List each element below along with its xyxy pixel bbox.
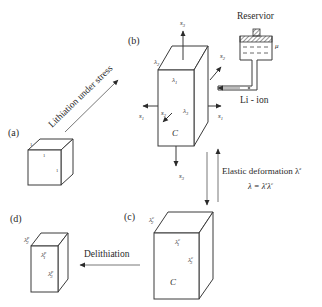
li-ion-particle — [248, 87, 251, 90]
cube-c-lambda2: λc2 — [148, 215, 154, 225]
li-ion-label: Li - ion — [240, 95, 269, 105]
delithiation-transition: Delithiation — [80, 249, 140, 265]
elastic-label: Elastic deformation λe — [222, 166, 301, 176]
cube-c-center-c: C — [170, 277, 177, 287]
panel-c: (c) λc2 λc1 λc3 C — [124, 211, 213, 299]
reservoir-piston — [240, 36, 272, 42]
stress-bottom-label: s3 — [179, 172, 185, 181]
panel-a: (a) 1 1 1 — [8, 127, 73, 185]
stress-arrow-back — [210, 67, 221, 80]
stress-top-label: s3 — [180, 19, 186, 28]
panel-b: (b) λ2 λ1 λ3 C s3 s3 s1 s1 s2 s2 — [128, 19, 226, 181]
reservoir-title: Reservior — [237, 11, 275, 21]
lithiation-transition: Lithiation under stress — [46, 63, 118, 132]
reservoir-piston-handle — [253, 29, 260, 36]
reservoir-tank — [218, 36, 272, 90]
cube-b-lambda2: λ2 — [153, 58, 160, 67]
panel-d-label: (d) — [10, 213, 22, 225]
cube-c-lambda1: λc1 — [174, 237, 180, 247]
cube-d-lambda2: λp2 — [23, 235, 30, 245]
stress-right-label: s1 — [218, 112, 223, 121]
lithiation-label: Lithiation under stress — [46, 63, 114, 129]
delithiation-label: Delithiation — [84, 249, 130, 259]
cube-a-height-label: 1 — [56, 168, 58, 173]
lithiation-diagram: (a) 1 1 1 Lithiation under stress (b) λ2… — [0, 0, 322, 307]
stress-left-label: s1 — [139, 112, 144, 121]
cube-a-depth-label: 1 — [30, 142, 32, 147]
stress-back-label: s2 — [220, 52, 226, 61]
panel-d: (d) λp2 λp1 λp3 — [10, 213, 68, 292]
cube-c-lambda3: λc3 — [187, 255, 193, 265]
panel-b-label: (b) — [128, 35, 140, 47]
panel-a-label: (a) — [8, 127, 19, 139]
cube-b-center-c: C — [172, 128, 179, 138]
reservoir-liquid — [243, 47, 268, 53]
reservoir-potential: μ — [275, 42, 279, 50]
panel-c-label: (c) — [124, 211, 135, 223]
cube-a-width-label: 1 — [43, 153, 45, 158]
elastic-equation: λ = λeλc — [247, 181, 273, 191]
elastic-transition: Elastic deformation λe λ = λeλc — [207, 149, 301, 205]
reservoir: Reservior μ Li - ion — [218, 11, 279, 105]
